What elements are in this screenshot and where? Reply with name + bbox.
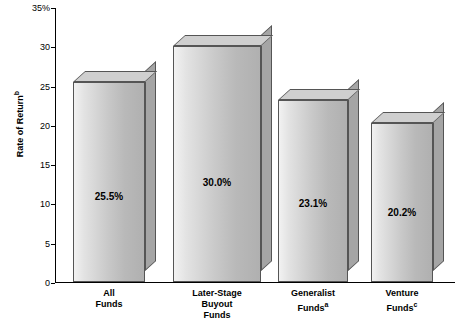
bar: 23.1% <box>278 100 348 282</box>
bar-front-face <box>371 123 433 282</box>
y-tick-label: 5 <box>45 239 50 249</box>
bar-value-label: 25.5% <box>73 191 145 202</box>
bar-value-label: 30.0% <box>173 177 261 188</box>
y-axis-title: Rate of Returnb <box>13 59 25 189</box>
y-axis-title-superscript: b <box>13 91 20 95</box>
category-label-line: Fundsc <box>346 299 458 314</box>
y-tick-mark <box>51 283 55 284</box>
y-tick-label: 30 <box>40 42 50 52</box>
y-tick-label: 10 <box>40 199 50 209</box>
bar-front-face <box>173 46 261 282</box>
y-tick-label: 15 <box>40 160 50 170</box>
bar-top-face <box>173 35 273 46</box>
bar-side-face <box>261 25 272 271</box>
bar: 25.5% <box>73 82 145 282</box>
y-tick-label: 25 <box>40 82 50 92</box>
category-label-superscript: a <box>325 301 329 308</box>
bar-value-label: 20.2% <box>371 207 433 218</box>
bar-top-face <box>278 89 360 100</box>
bar-value-label: 23.1% <box>278 198 348 209</box>
y-tick-mark <box>51 126 55 127</box>
plot-area: 05101520253035% 25.5%30.0%23.1%20.2% <box>55 8 455 283</box>
bar-side-face <box>348 79 359 271</box>
y-tick-mark <box>51 8 55 9</box>
y-tick-label: 0 <box>45 278 50 288</box>
bar-front-face <box>278 100 348 282</box>
x-axis-line <box>55 282 455 283</box>
y-tick-label: 35% <box>32 3 50 13</box>
y-tick-mark <box>51 47 55 48</box>
bar-side-face <box>145 61 156 271</box>
bar-front-face <box>73 82 145 282</box>
y-tick-mark <box>51 244 55 245</box>
bar: 20.2% <box>371 123 433 282</box>
bar-chart: Rate of Returnb 05101520253035% 25.5%30.… <box>0 0 466 327</box>
y-tick-mark <box>51 165 55 166</box>
y-tick-mark <box>51 204 55 205</box>
bar: 30.0% <box>173 46 261 282</box>
category-label-superscript: c <box>414 301 418 308</box>
y-tick-mark <box>51 87 55 88</box>
category-label: VentureFundsc <box>346 288 458 314</box>
y-axis-title-text: Rate of Return <box>15 95 25 157</box>
y-axis-line <box>55 8 56 283</box>
category-label-line: Venture <box>346 288 458 299</box>
bar-top-face <box>371 112 445 123</box>
bar-side-face <box>433 102 444 271</box>
y-tick-label: 20 <box>40 121 50 131</box>
bar-top-face <box>73 71 157 82</box>
